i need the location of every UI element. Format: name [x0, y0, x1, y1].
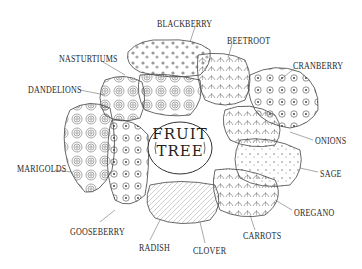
title-line-1: FRUIT — [148, 126, 212, 143]
clover-patch — [147, 182, 219, 224]
label-dandelions: DANDELIONS — [28, 84, 82, 95]
label-gooseberry: GOOSEBERRY — [70, 226, 125, 237]
beetroot-patch — [197, 53, 250, 105]
label-carrots: CARROTS — [243, 230, 281, 241]
label-blackberry: BLACKBERRY — [157, 18, 212, 29]
title-line-2: TREE — [148, 143, 212, 160]
label-radish: RADISH — [139, 242, 170, 253]
label-onions: ONIONS — [315, 135, 346, 146]
label-sage: SAGE — [320, 168, 342, 179]
center-title: FRUIT TREE — [148, 126, 212, 160]
label-clover: CLOVER — [193, 245, 226, 256]
label-beetroot: BEETROOT — [227, 35, 270, 46]
label-nasturtiums: NASTURTIUMS — [59, 53, 118, 64]
nasturtium-patch — [138, 74, 201, 116]
label-cranberry: CRANBERRY — [293, 60, 343, 71]
gooseberry-patch — [107, 120, 148, 204]
marigold-patch — [64, 103, 114, 192]
label-marigolds: MARIGOLDS — [17, 163, 66, 174]
guild-diagram: FRUIT TREE BLACKBERRY BEETROOT NASTURTIU… — [0, 0, 362, 269]
label-oregano: OREGANO — [294, 207, 335, 218]
